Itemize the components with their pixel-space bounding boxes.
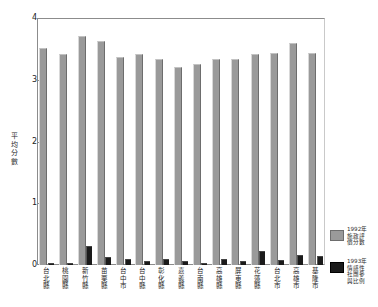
bar-series-1993	[317, 256, 323, 265]
x-axis-label: 桃園縣	[61, 268, 70, 291]
bar-series-1992	[59, 54, 67, 265]
x-axis-label: 台中縣	[138, 268, 147, 291]
x-axis-label-char: 市	[292, 283, 301, 291]
x-axis-label-char: 市	[311, 283, 320, 291]
x-axis-label: 高雄縣	[215, 268, 224, 291]
bar-series-1993	[259, 251, 265, 265]
bar-series-1992	[308, 53, 316, 265]
legend-label-series-1993: 1993年情感性社團參與比例	[347, 258, 378, 284]
bar-series-1992	[116, 57, 124, 265]
y-axis-tick-label: 1	[19, 198, 37, 208]
x-axis-label: 基隆市	[311, 268, 320, 291]
x-axis-label: 新竹縣	[81, 268, 90, 291]
bar-series-1992	[97, 41, 105, 265]
bar-series-1992	[174, 67, 182, 265]
x-axis-label-char: 市	[273, 283, 282, 291]
bar-series-1992	[39, 48, 47, 265]
x-axis-label-char: 市	[119, 283, 128, 291]
x-axis-label-char: 縣	[234, 283, 243, 291]
x-axis-label: 台中市	[119, 268, 128, 291]
x-axis-label-char: 縣	[215, 283, 224, 291]
x-axis-label-char: 縣	[196, 283, 205, 291]
legend-label-line: 1993年	[347, 258, 378, 265]
y-axis-tick-label: 2	[19, 137, 37, 147]
y-axis-tick-label: 4	[19, 13, 37, 23]
legend-label-line: 價分數	[347, 239, 378, 246]
bar-series-1993	[297, 255, 303, 265]
bar-series-1993	[48, 263, 54, 265]
bar-series-1992	[193, 64, 201, 265]
x-axis-label: 苗栗縣	[100, 268, 109, 291]
bar-series-container	[37, 18, 325, 265]
x-axis-label: 台北市	[273, 268, 282, 291]
bar-series-1993	[105, 257, 111, 265]
y-axis-title-char: 分	[8, 149, 20, 158]
x-axis-label-char: 縣	[100, 283, 109, 291]
bar-series-1992	[135, 54, 143, 265]
bar-series-1993	[278, 260, 284, 265]
legend-swatch-series-1993	[330, 262, 344, 273]
legend-label-line: 與比例	[347, 278, 378, 285]
bar-series-1992	[270, 53, 278, 265]
x-axis-label: 嘉義縣	[177, 268, 186, 291]
legend-label-series-1992: 1992年施政評價分數	[347, 226, 378, 246]
chart-legend: 1992年施政評價分數1993年情感性社團參與比例	[330, 226, 378, 296]
bar-series-1993	[125, 259, 131, 265]
legend-label-line: 1992年	[347, 226, 378, 233]
bar-series-1993	[201, 263, 207, 265]
bar-series-1993	[86, 246, 92, 265]
bar-chart: 平 均 分 數 01234 台北縣桃園縣新竹縣苗栗縣台中市台中縣彰化縣嘉義縣台南…	[0, 0, 378, 307]
bar-series-1993	[182, 261, 188, 265]
bar-series-1993	[240, 261, 246, 265]
bar-series-1992	[78, 36, 86, 265]
x-axis-label: 花蓮縣	[253, 268, 262, 291]
bar-series-1992	[251, 54, 259, 265]
bar-series-1993	[144, 261, 150, 265]
x-axis-label-char: 縣	[253, 283, 262, 291]
x-axis-label-char: 縣	[138, 283, 147, 291]
legend-swatch-series-1992	[330, 230, 344, 241]
y-axis-title-char: 數	[8, 158, 20, 167]
bar-series-1992	[155, 59, 163, 265]
bar-series-1992	[212, 59, 220, 265]
x-axis-label: 台北縣	[42, 268, 51, 291]
bar-series-1993	[163, 259, 169, 265]
x-axis-label-char: 縣	[42, 283, 51, 291]
x-axis-label-char: 縣	[157, 283, 166, 291]
x-axis-label-char: 縣	[177, 283, 186, 291]
x-axis-label-char: 縣	[81, 283, 90, 291]
x-axis-label: 屏東縣	[234, 268, 243, 291]
bar-series-1993	[67, 263, 73, 265]
x-axis-label: 彰化縣	[157, 268, 166, 291]
legend-label-line: 社團參	[347, 271, 378, 278]
x-axis-labels: 台北縣桃園縣新竹縣苗栗縣台中市台中縣彰化縣嘉義縣台南縣高雄縣屏東縣花蓮縣台北市高…	[37, 268, 325, 307]
x-axis-label: 台南縣	[196, 268, 205, 291]
bar-series-1993	[221, 259, 227, 265]
x-axis-label-char: 縣	[61, 283, 70, 291]
y-axis-tick-label: 0	[19, 260, 37, 270]
x-axis-label: 高雄市	[292, 268, 301, 291]
y-axis-tick-label: 3	[19, 75, 37, 85]
bar-series-1992	[231, 59, 239, 265]
bar-series-1992	[289, 43, 297, 265]
